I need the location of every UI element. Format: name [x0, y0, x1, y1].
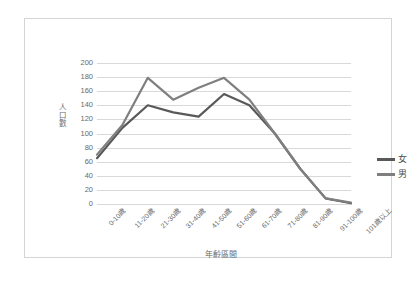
y-axis-tick-label: 0 — [89, 200, 93, 208]
y-axis-tick-label: 40 — [85, 172, 93, 180]
legend-label: 男 — [398, 170, 407, 179]
legend-swatch — [377, 173, 395, 176]
x-axis-tick-label: 81-90歲 — [311, 207, 334, 230]
series-line — [97, 78, 351, 203]
plot-area — [97, 63, 351, 204]
chart-figure: 人口數 020406080100120140160180200 0-10歲11-… — [0, 0, 414, 282]
legend-label: 女 — [398, 155, 407, 164]
y-axis-tick-label: 20 — [85, 186, 93, 194]
series-line — [97, 94, 351, 203]
x-axis-tick-label: 91-100歲 — [338, 207, 363, 232]
y-axis-tick-label: 180 — [80, 73, 93, 81]
y-axis-tick-label: 60 — [85, 158, 93, 166]
x-axis-tick-label: 61-70歲 — [261, 207, 284, 230]
legend-swatch — [377, 158, 395, 161]
x-axis-tick-label: 0-10歲 — [107, 207, 127, 227]
series-lines — [97, 63, 351, 204]
legend-entry[interactable]: 男 — [377, 167, 414, 182]
y-axis-tick-label: 200 — [80, 59, 93, 67]
y-axis-tick-label: 160 — [80, 87, 93, 95]
x-axis-tick-label: 31-40歲 — [184, 207, 207, 230]
x-axis-tick-label: 71-80歲 — [286, 207, 309, 230]
chart-legend: 女男 — [377, 152, 414, 182]
gridline — [97, 204, 351, 205]
y-axis-tick-label: 100 — [80, 130, 93, 138]
x-axis-tick-label: 51-60歲 — [235, 207, 258, 230]
x-axis-tick-labels: 0-10歲11-20歲21-30歲31-40歲41-50歲51-60歲61-70… — [97, 207, 351, 251]
y-axis-tick-label: 80 — [85, 144, 93, 152]
y-axis-tick-label: 120 — [80, 116, 93, 124]
legend-entry[interactable]: 女 — [377, 152, 414, 167]
x-axis-tick-label: 41-50歲 — [210, 207, 233, 230]
y-axis-title: 人口數 — [58, 103, 66, 127]
y-axis-tick-labels: 020406080100120140160180200 — [69, 63, 93, 204]
x-axis-tick-label: 101歲以上 — [365, 207, 393, 235]
x-axis-tick-label: 21-30歲 — [159, 207, 182, 230]
chart-frame: 人口數 020406080100120140160180200 0-10歲11-… — [24, 18, 392, 258]
x-axis-tick-label: 11-20歲 — [134, 207, 156, 229]
y-axis-tick-label: 140 — [80, 102, 93, 110]
x-axis-title: 年齡區間 — [25, 251, 414, 259]
